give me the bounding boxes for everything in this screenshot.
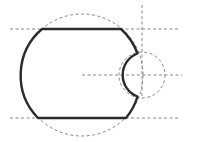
truncated-circle-profile [21,29,138,118]
diagram-canvas [0,0,197,142]
construction-circle-small [119,52,165,98]
